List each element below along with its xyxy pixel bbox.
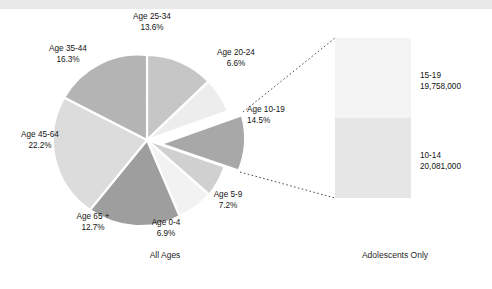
- bar-label-10-14-population: 20,081,000: [420, 162, 461, 171]
- adolescent-stacked-bar: [335, 38, 411, 198]
- pie-label-age-0-4-pct: 6.9%: [135, 229, 197, 240]
- bar-segment-15-19[interactable]: [335, 38, 411, 118]
- pie-label-age-20-24-name: Age 20-24: [217, 48, 255, 57]
- pie-label-age-0-4-name: Age 0-4: [152, 218, 181, 227]
- pie-label-age-45-64-pct: 22.2%: [5, 141, 75, 152]
- pie-label-age-65-plus-pct: 12.7%: [58, 223, 128, 234]
- pie-label-age-65-plus-name: Age 65 +: [76, 212, 109, 221]
- pie-label-age-65-plus: Age 65 + 12.7%: [58, 212, 128, 233]
- pie-label-age-45-64-name: Age 45-64: [21, 130, 59, 139]
- pie-label-age-5-9: Age 5-9 7.2%: [197, 190, 259, 211]
- bar-label-15-19: 15-19 19,758,000: [420, 70, 461, 92]
- pie-label-age-25-34: Age 25-34 13.6%: [117, 12, 187, 33]
- pie-label-age-0-4: Age 0-4 6.9%: [135, 218, 197, 239]
- bar-label-15-19-name: 15-19: [420, 71, 441, 80]
- pie-label-age-10-19-name: Age 10-19: [247, 105, 285, 114]
- pie-label-age-25-34-pct: 13.6%: [117, 23, 187, 34]
- pie-label-age-10-19: Age 10-19 14.5%: [247, 105, 317, 126]
- pie-label-age-5-9-name: Age 5-9: [214, 190, 243, 199]
- figure-root: Age 25-34 13.6% Age 35-44 16.3% Age 45-6…: [0, 0, 492, 289]
- pie-label-age-20-24-pct: 6.6%: [205, 59, 267, 70]
- pie-label-age-45-64: Age 45-64 22.2%: [5, 130, 75, 151]
- pie-label-age-35-44-pct: 16.3%: [33, 55, 103, 66]
- pie-label-age-10-19-pct: 14.5%: [247, 116, 317, 127]
- panel-caption-all-ages: All Ages: [105, 250, 225, 260]
- bar-segment-10-14[interactable]: [335, 118, 411, 198]
- pie-label-age-35-44: Age 35-44 16.3%: [33, 44, 103, 65]
- pie-label-age-35-44-name: Age 35-44: [49, 44, 87, 53]
- bar-label-15-19-population: 19,758,000: [420, 82, 461, 91]
- bar-label-10-14: 10-14 20,081,000: [420, 150, 461, 172]
- pie-label-age-5-9-pct: 7.2%: [197, 201, 259, 212]
- pie-label-age-25-34-name: Age 25-34: [133, 12, 171, 21]
- panel-caption-adolescents-only: Adolescents Only: [330, 250, 460, 260]
- pie-label-age-20-24: Age 20-24 6.6%: [205, 48, 267, 69]
- bar-label-10-14-name: 10-14: [420, 151, 441, 160]
